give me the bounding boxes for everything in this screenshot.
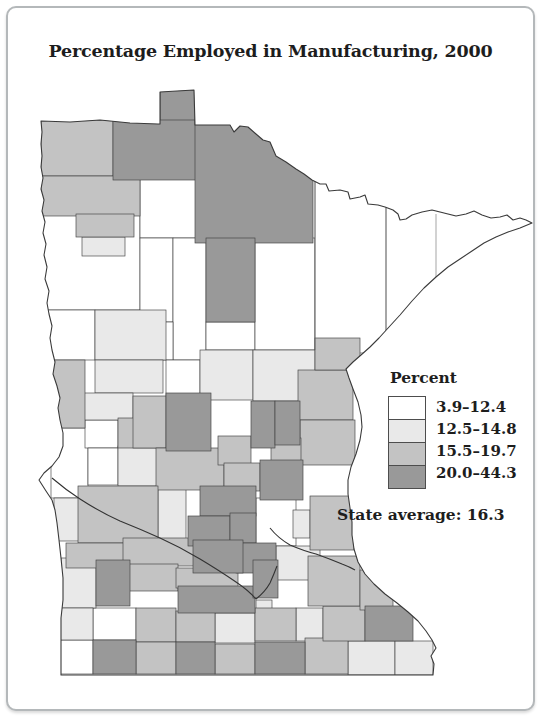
legend-swatch (388, 442, 426, 466)
legend-class-label: 20.0–44.3 (436, 462, 517, 484)
page-frame: Percentage Employed in Manufacturing, 20… (6, 6, 535, 711)
legend-body: 3.9–12.4 12.5–14.8 15.5–19.7 20.0–44.3 (388, 396, 517, 489)
legend-labels: 3.9–12.4 12.5–14.8 15.5–19.7 20.0–44.3 (436, 396, 517, 489)
legend: Percent 3.9–12.4 12.5–14.8 15.5–19.7 20.… (388, 368, 517, 489)
legend-swatch (388, 396, 426, 420)
legend-heading: Percent (390, 368, 517, 387)
legend-class-label: 15.5–19.7 (436, 440, 517, 462)
legend-swatch (388, 419, 426, 443)
legend-class-label: 3.9–12.4 (436, 396, 517, 418)
legend-class-label: 12.5–14.8 (436, 418, 517, 440)
legend-swatch (388, 465, 426, 489)
legend-swatches (388, 396, 426, 489)
state-average-label: State average: 16.3 (337, 505, 505, 524)
